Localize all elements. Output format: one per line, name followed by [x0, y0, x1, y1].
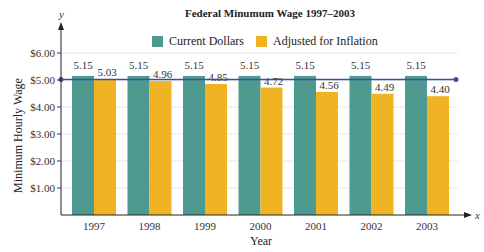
data-label: 5.15 [351, 59, 371, 71]
bar [150, 81, 172, 215]
bar [350, 76, 372, 215]
y-tick-label: $2.00 [30, 155, 55, 167]
data-label: 5.15 [129, 59, 149, 71]
x-tick-label: 1998 [139, 220, 162, 232]
bar [128, 76, 150, 215]
x-tick-label: 2001 [305, 220, 327, 232]
y-tick-label: $5.00 [30, 74, 55, 86]
bar [405, 76, 427, 215]
y-tick-label: $4.00 [30, 101, 55, 113]
x-axis-symbol: x [474, 209, 480, 221]
bar [316, 92, 338, 215]
data-label: 5.15 [73, 59, 93, 71]
bar [239, 76, 261, 215]
data-label: 5.15 [184, 59, 204, 71]
reference-dot-end [454, 77, 459, 82]
x-tick-label: 1999 [194, 220, 217, 232]
data-label: 4.72 [264, 75, 283, 87]
data-label: 4.85 [208, 71, 228, 83]
x-axis-arrow [464, 212, 472, 218]
data-label: 4.56 [319, 79, 339, 91]
data-label: 4.96 [153, 68, 173, 80]
data-label: 5.15 [295, 59, 315, 71]
y-tick-label: $6.00 [30, 47, 55, 59]
y-tick-label: $3.00 [30, 128, 55, 140]
x-tick-label: 1997 [83, 220, 106, 232]
bar [261, 88, 283, 215]
bar [183, 76, 205, 215]
y-axis-arrow [58, 22, 64, 30]
bar [372, 94, 394, 215]
bar [94, 79, 116, 215]
data-label: 4.49 [375, 81, 395, 93]
bar [205, 84, 227, 215]
data-label: 5.03 [97, 66, 117, 78]
data-label: 5.15 [406, 59, 426, 71]
bar [72, 76, 94, 215]
y-axis-symbol: y [58, 8, 64, 20]
plot-area: $1.00$2.00$3.00$4.00$5.00$6.005.155.0319… [0, 0, 484, 252]
data-label: 5.15 [240, 59, 260, 71]
x-tick-label: 2000 [250, 220, 273, 232]
x-tick-label: 2002 [361, 220, 383, 232]
data-label: 4.40 [430, 83, 450, 95]
x-tick-label: 2003 [416, 220, 439, 232]
bar [294, 76, 316, 215]
y-tick-label: $1.00 [30, 182, 55, 194]
bar [427, 96, 449, 215]
